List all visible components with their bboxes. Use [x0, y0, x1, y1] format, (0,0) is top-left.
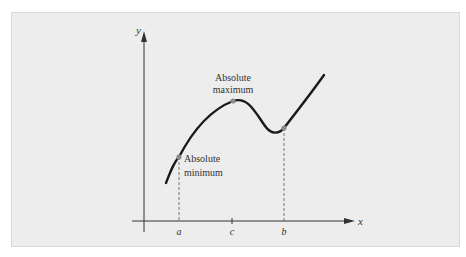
y-axis-arrow-icon — [141, 31, 147, 42]
tick-label-c: c — [230, 226, 235, 237]
tick-label-b: b — [282, 226, 287, 237]
endpoint-b-point — [281, 125, 286, 130]
absolute-maximum-point — [230, 98, 235, 103]
x-axis-arrow-icon — [344, 218, 355, 224]
tick-label-a: a — [177, 226, 182, 237]
function-graph: y x a c b Absolute maximum Absolute mini… — [0, 0, 466, 257]
y-axis-label: y — [135, 24, 141, 36]
x-axis-label: x — [357, 215, 363, 227]
absolute-minimum-label-line2: minimum — [184, 167, 223, 178]
absolute-maximum-label-line1: Absolute — [215, 72, 252, 83]
absolute-minimum-point — [176, 154, 181, 159]
absolute-minimum-label-line1: Absolute — [184, 153, 221, 164]
absolute-maximum-label-line2: maximum — [213, 84, 254, 95]
